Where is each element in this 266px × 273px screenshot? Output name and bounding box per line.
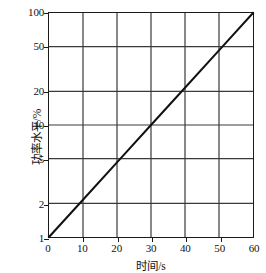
- y-tick-mark: [44, 160, 49, 161]
- y-tick-label: 50: [33, 41, 44, 52]
- y-tick-label: 5: [39, 154, 44, 165]
- y-tick-mark: [44, 92, 49, 93]
- chart-figure: 功率水平/% 125102050100 0102030405060 时间/s: [0, 0, 266, 273]
- y-tick-mark: [44, 239, 49, 240]
- y-tick-mark: [44, 13, 49, 14]
- y-tick-mark: [44, 126, 49, 127]
- y-tick-mark: [44, 205, 49, 206]
- plot-area: [48, 12, 254, 238]
- x-tick-label: 40: [180, 243, 191, 254]
- y-tick-label: 100: [28, 7, 44, 18]
- x-tick-label: 0: [45, 243, 50, 254]
- x-axis-tick-labels: 0102030405060: [48, 243, 254, 257]
- x-tick-label: 30: [146, 243, 157, 254]
- x-tick-label: 50: [214, 243, 225, 254]
- y-axis-tick-labels: 125102050100: [0, 12, 44, 238]
- y-tick-label: 1: [39, 233, 44, 244]
- data-series-line: [49, 13, 253, 237]
- y-tick-label: 2: [39, 198, 44, 209]
- x-axis-title: 时间/s: [48, 257, 254, 273]
- x-tick-label: 20: [111, 243, 122, 254]
- x-tick-label: 60: [249, 243, 260, 254]
- y-tick-label: 20: [33, 85, 44, 96]
- series-polyline: [49, 13, 253, 237]
- y-tick-mark: [44, 47, 49, 48]
- y-tick-label: 10: [33, 120, 44, 131]
- x-tick-label: 10: [77, 243, 88, 254]
